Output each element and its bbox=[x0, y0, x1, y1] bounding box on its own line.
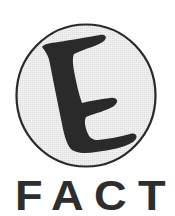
fact-logo: F A C T bbox=[0, 0, 175, 216]
wordmark-letter: F bbox=[15, 174, 43, 216]
wordmark-fact: F A C T bbox=[0, 174, 175, 216]
wordmark-letter: C bbox=[94, 174, 127, 216]
emblem bbox=[0, 0, 175, 175]
wordmark-letter: A bbox=[51, 174, 84, 216]
letter-e-in-circle-icon bbox=[0, 0, 175, 175]
wordmark-letter: T bbox=[138, 174, 166, 216]
